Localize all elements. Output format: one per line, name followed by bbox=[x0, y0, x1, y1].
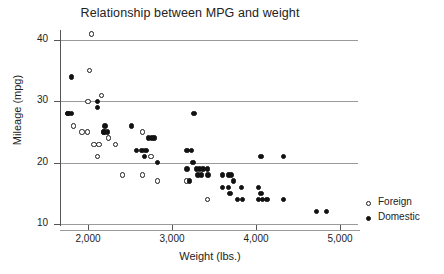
data-point-foreign bbox=[89, 31, 94, 36]
y-tick-mark-10 bbox=[54, 224, 60, 225]
y-tick-label-40: 40 bbox=[14, 33, 48, 44]
data-point-domestic bbox=[231, 178, 236, 183]
y-tick-mark-40 bbox=[54, 40, 60, 41]
data-point-domestic bbox=[258, 154, 263, 159]
data-point-domestic bbox=[189, 148, 194, 153]
data-point-domestic bbox=[205, 172, 210, 177]
data-point-domestic bbox=[314, 209, 319, 214]
data-point-foreign bbox=[85, 99, 90, 104]
data-point-domestic bbox=[256, 185, 261, 190]
open-circle-icon bbox=[366, 201, 371, 206]
data-point-domestic bbox=[95, 99, 100, 104]
data-point-foreign bbox=[99, 93, 104, 98]
data-point-foreign bbox=[120, 172, 125, 177]
data-point-domestic bbox=[190, 160, 195, 165]
gridline-y-20 bbox=[61, 163, 358, 164]
data-point-foreign bbox=[148, 154, 153, 159]
data-point-domestic bbox=[187, 178, 192, 183]
data-point-foreign bbox=[113, 142, 118, 147]
data-point-domestic bbox=[105, 129, 110, 134]
gridline-y-10 bbox=[61, 224, 358, 225]
y-tick-label-30: 30 bbox=[14, 94, 48, 105]
data-point-foreign bbox=[71, 123, 76, 128]
data-point-domestic bbox=[129, 123, 134, 128]
x-tick-label-2000: 2,000 bbox=[66, 233, 110, 244]
data-point-foreign bbox=[140, 172, 145, 177]
data-point-domestic bbox=[102, 123, 107, 128]
data-point-domestic bbox=[95, 105, 100, 110]
data-point-domestic bbox=[258, 191, 263, 196]
legend-label: Domestic bbox=[378, 211, 420, 222]
legend: ForeignDomestic bbox=[366, 196, 444, 226]
data-point-domestic bbox=[220, 185, 225, 190]
data-point-domestic bbox=[281, 197, 286, 202]
data-point-foreign bbox=[85, 129, 90, 134]
x-axis-title: Weight (lbs.) bbox=[60, 250, 360, 262]
data-point-domestic bbox=[264, 197, 269, 202]
y-tick-label-10: 10 bbox=[14, 217, 48, 228]
data-point-domestic bbox=[184, 166, 189, 171]
x-axis-line bbox=[60, 230, 360, 231]
data-point-domestic bbox=[220, 172, 225, 177]
data-point-foreign bbox=[205, 197, 210, 202]
y-tick-mark-30 bbox=[54, 101, 60, 102]
data-point-domestic bbox=[205, 166, 210, 171]
data-point-domestic bbox=[199, 172, 204, 177]
gridline-y-40 bbox=[61, 40, 358, 41]
data-point-foreign bbox=[79, 129, 84, 134]
plot-area bbox=[61, 32, 358, 224]
x-tick-label-3000: 3,000 bbox=[150, 233, 194, 244]
data-point-foreign bbox=[140, 129, 145, 134]
scatter-plot-figure: Relationship between MPG and weight Mile… bbox=[0, 0, 444, 274]
data-point-domestic bbox=[227, 191, 232, 196]
data-point-foreign bbox=[95, 154, 100, 159]
legend-item-domestic[interactable]: Domestic bbox=[366, 211, 444, 226]
data-point-domestic bbox=[69, 111, 74, 116]
data-point-domestic bbox=[69, 74, 74, 79]
data-point-domestic bbox=[142, 154, 147, 159]
data-point-domestic bbox=[324, 209, 329, 214]
data-point-domestic bbox=[226, 185, 231, 190]
data-point-domestic bbox=[191, 111, 196, 116]
data-point-domestic bbox=[239, 185, 244, 190]
data-point-foreign bbox=[87, 68, 92, 73]
data-point-foreign bbox=[106, 135, 111, 140]
legend-item-foreign[interactable]: Foreign bbox=[366, 196, 444, 211]
data-point-domestic bbox=[281, 154, 286, 159]
x-tick-label-4000: 4,000 bbox=[234, 233, 278, 244]
data-point-domestic bbox=[228, 172, 233, 177]
filled-circle-icon bbox=[366, 216, 371, 221]
y-tick-mark-20 bbox=[54, 163, 60, 164]
data-point-domestic bbox=[240, 197, 245, 202]
data-point-foreign bbox=[155, 178, 160, 183]
y-tick-label-20: 20 bbox=[14, 156, 48, 167]
data-point-foreign bbox=[96, 142, 101, 147]
x-tick-label-5000: 5,000 bbox=[318, 233, 362, 244]
data-point-domestic bbox=[155, 160, 160, 165]
chart-title: Relationship between MPG and weight bbox=[0, 6, 380, 20]
legend-label: Foreign bbox=[378, 196, 412, 207]
gridline-y-30 bbox=[61, 101, 358, 102]
data-point-domestic bbox=[143, 148, 148, 153]
data-point-domestic bbox=[152, 135, 157, 140]
